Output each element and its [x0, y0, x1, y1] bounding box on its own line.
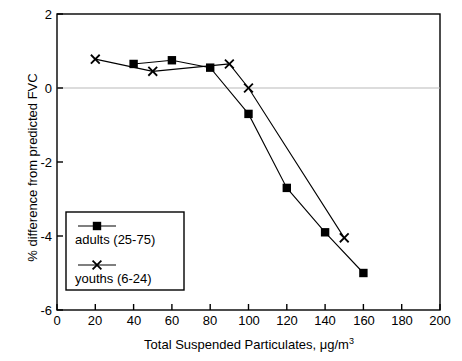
- plot-area: [0, 0, 462, 361]
- chart-figure: % difference from predicted FVC 2 0 -2 -…: [0, 0, 462, 361]
- data-point-marker: [283, 184, 291, 192]
- data-point-marker: [359, 269, 367, 277]
- legend-label-adults: adults (25-75): [75, 232, 155, 247]
- square-marker: [93, 222, 101, 230]
- legend-label-youths: youths (6-24): [75, 271, 152, 286]
- data-point-marker: [206, 63, 214, 71]
- data-point-marker: [321, 228, 329, 236]
- data-point-marker: [168, 56, 176, 64]
- data-point-marker: [91, 55, 100, 64]
- data-point-marker: [244, 110, 252, 118]
- data-point-marker: [340, 233, 349, 242]
